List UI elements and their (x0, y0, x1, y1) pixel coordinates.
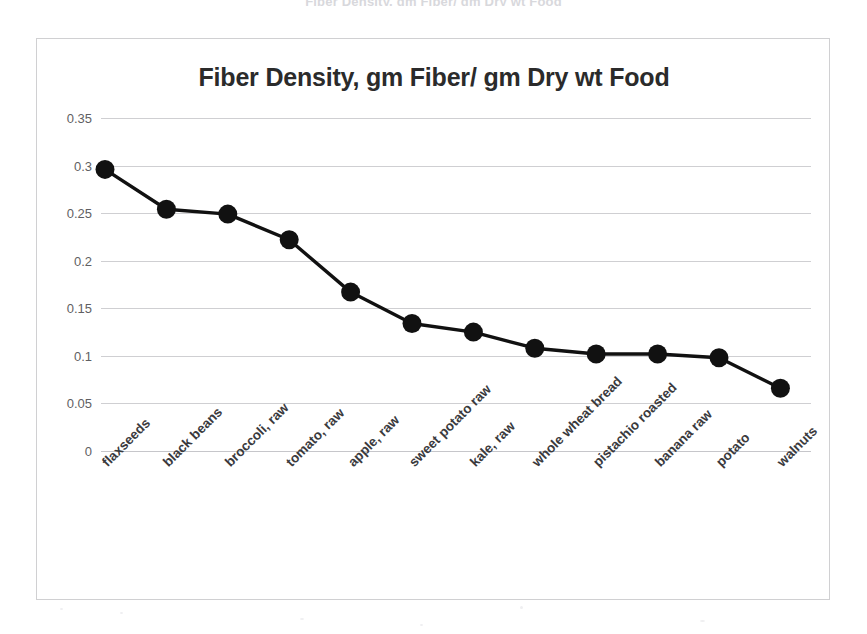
scan-speckle (60, 608, 63, 610)
data-point-marker (648, 345, 667, 364)
scan-speckle (520, 606, 523, 609)
gridline-0 (101, 451, 811, 452)
series-markers (96, 160, 790, 398)
scan-speckle (700, 620, 705, 622)
data-point-marker (525, 339, 544, 358)
y-tick-label: 0.2 (74, 253, 92, 268)
y-tick-label: 0.35 (67, 111, 92, 126)
y-tick-label: 0.25 (67, 206, 92, 221)
scan-speckle (300, 618, 304, 620)
data-point-marker (218, 205, 237, 224)
scan-cropped-header-text: Fiber Density, gm Fiber/ gm Dry wt Food (0, 0, 867, 6)
chart-title: Fiber Density, gm Fiber/ gm Dry wt Food (37, 63, 831, 92)
data-point-marker (341, 283, 360, 302)
fiber-density-line-series (101, 118, 811, 451)
scan-speckle (120, 612, 123, 614)
data-point-marker (403, 314, 422, 333)
y-tick-label: 0.1 (74, 348, 92, 363)
data-point-marker (280, 230, 299, 249)
data-point-marker (771, 379, 790, 398)
data-point-marker (464, 323, 483, 342)
chart-frame: Fiber Density, gm Fiber/ gm Dry wt Food … (36, 38, 830, 600)
data-point-marker (96, 160, 115, 179)
data-point-marker (157, 200, 176, 219)
plot-area: 0.350.30.250.20.150.10.050 (101, 118, 811, 451)
y-tick-label: 0.15 (67, 301, 92, 316)
y-tick-label: 0.05 (67, 396, 92, 411)
x-axis-tick-labels: flaxseedsblack beansbroccoli, rawtomato,… (101, 459, 811, 599)
y-tick-label: 0 (85, 444, 92, 459)
data-point-marker (587, 345, 606, 364)
y-tick-label: 0.3 (74, 158, 92, 173)
scan-speckle (420, 624, 423, 626)
series-line (105, 169, 780, 388)
data-point-marker (710, 348, 729, 367)
